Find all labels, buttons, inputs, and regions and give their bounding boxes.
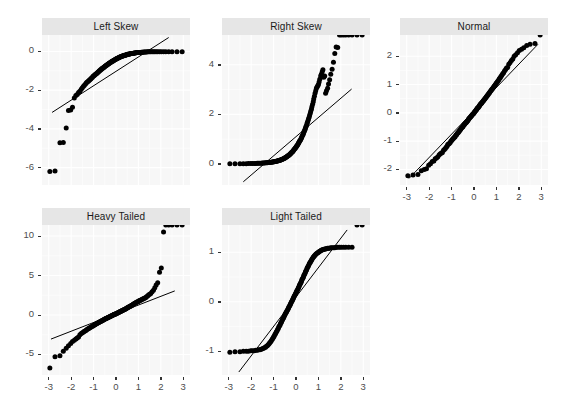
plot-panel-heavy-tailed — [42, 225, 190, 375]
panel-grid — [400, 35, 548, 185]
x-axis-tick-mark — [363, 377, 364, 380]
x-axis-tick-label: -3 — [217, 381, 241, 392]
data-points — [47, 225, 184, 370]
x-axis-tick-label: 2 — [507, 191, 531, 202]
data-points — [405, 35, 542, 178]
y-axis-tick-mark — [38, 354, 41, 355]
y-axis-tick-label: 0 — [368, 106, 392, 117]
plot-panel-light-tailed — [222, 225, 370, 375]
x-axis-tick-mark — [518, 187, 519, 190]
qq-plot-figure: Left Skew0-2-4-6Right Skew024Normal210-1… — [0, 0, 566, 401]
data-points — [227, 35, 364, 166]
x-axis-tick-label: 1 — [126, 381, 150, 392]
y-axis-tick-label: 0 — [190, 157, 214, 168]
panel-grid — [222, 225, 370, 375]
y-axis-tick-label: 0 — [10, 44, 34, 55]
x-axis-tick-mark — [541, 187, 542, 190]
y-axis-tick-label: -2 — [368, 162, 392, 173]
facet-right-skew: Right Skew024 — [0, 0, 566, 401]
y-axis-tick-mark — [396, 112, 399, 113]
y-axis-tick-label: 5 — [10, 269, 34, 280]
x-axis-tick-label: -3 — [37, 381, 61, 392]
facet-strip-label: Light Tailed — [270, 211, 322, 222]
x-axis-tick-mark — [138, 377, 139, 380]
x-axis-tick-mark — [451, 187, 452, 190]
y-axis-tick-label: -5 — [10, 347, 34, 358]
y-axis-tick-mark — [218, 163, 221, 164]
x-axis-tick-mark — [406, 187, 407, 190]
x-axis-tick-label: -1 — [82, 381, 106, 392]
x-axis-tick-label: 3 — [529, 191, 553, 202]
x-axis-tick-label: -2 — [59, 381, 83, 392]
y-axis-tick-mark — [38, 167, 41, 168]
x-axis-tick-mark — [71, 377, 72, 380]
x-axis-tick-mark — [496, 187, 497, 190]
facet-strip-label: Right Skew — [270, 21, 322, 32]
data-points — [227, 225, 364, 355]
y-axis-tick-label: 1 — [190, 245, 214, 256]
y-axis-tick-mark — [396, 169, 399, 170]
y-axis-tick-label: 10 — [10, 229, 34, 240]
y-axis-tick-mark — [38, 51, 41, 52]
x-axis-tick-label: -2 — [417, 191, 441, 202]
facet-strip-light-tailed: Light Tailed — [222, 208, 370, 225]
y-axis-tick-mark — [218, 114, 221, 115]
y-axis-tick-mark — [396, 84, 399, 85]
y-axis-tick-mark — [396, 141, 399, 142]
x-axis-tick-label: 3 — [351, 381, 375, 392]
y-axis-tick-label: -2 — [10, 83, 34, 94]
facet-strip-right-skew: Right Skew — [222, 18, 370, 35]
facet-strip-label: Heavy Tailed — [87, 211, 145, 222]
panel-grid — [42, 225, 190, 375]
panel-grid — [222, 35, 370, 185]
y-axis-tick-label: 2 — [190, 107, 214, 118]
x-axis-tick-mark — [183, 377, 184, 380]
facet-light-tailed: Light Tailed10-1-3-2-10123 — [0, 0, 566, 401]
y-axis-tick-mark — [218, 351, 221, 352]
reference-line — [239, 230, 347, 372]
facet-strip-label: Normal — [458, 21, 491, 32]
y-axis-tick-label: -6 — [10, 161, 34, 172]
y-axis-tick-label: 0 — [190, 295, 214, 306]
plot-panel-right-skew — [222, 35, 370, 185]
y-axis-tick-mark — [38, 90, 41, 91]
x-axis-tick-label: 1 — [484, 191, 508, 202]
y-axis-tick-mark — [396, 56, 399, 57]
plot-panel-left-skew — [42, 35, 190, 185]
facet-heavy-tailed: Heavy Tailed1050-5-3-2-10123 — [0, 0, 566, 401]
y-axis-tick-label: 0 — [10, 308, 34, 319]
facet-strip-heavy-tailed: Heavy Tailed — [42, 208, 190, 225]
x-axis-tick-mark — [115, 377, 116, 380]
y-axis-tick-label: -4 — [10, 122, 34, 133]
facet-normal: Normal210-1-2-3-2-10123 — [0, 0, 566, 401]
x-axis-tick-mark — [429, 187, 430, 190]
x-axis-tick-label: -1 — [262, 381, 286, 392]
x-axis-tick-mark — [228, 377, 229, 380]
y-axis-tick-mark — [38, 315, 41, 316]
x-axis-tick-mark — [160, 377, 161, 380]
y-axis-tick-mark — [38, 128, 41, 129]
y-axis-tick-label: -1 — [368, 134, 392, 145]
y-axis-tick-label: -1 — [190, 344, 214, 355]
reference-line — [409, 44, 538, 178]
x-axis-tick-label: 3 — [171, 381, 195, 392]
x-axis-tick-mark — [273, 377, 274, 380]
x-axis-tick-label: -2 — [239, 381, 263, 392]
x-axis-tick-label: -1 — [440, 191, 464, 202]
y-axis-tick-label: 1 — [368, 78, 392, 89]
facet-strip-normal: Normal — [400, 18, 548, 35]
facet-left-skew: Left Skew0-2-4-6 — [0, 0, 566, 401]
x-axis-tick-mark — [318, 377, 319, 380]
facet-strip-left-skew: Left Skew — [42, 18, 190, 35]
plot-panel-normal — [400, 35, 548, 185]
x-axis-tick-mark — [93, 377, 94, 380]
x-axis-tick-mark — [295, 377, 296, 380]
x-axis-tick-label: 0 — [284, 381, 308, 392]
x-axis-tick-label: 2 — [149, 381, 173, 392]
y-axis-tick-mark — [218, 64, 221, 65]
y-axis-tick-mark — [218, 252, 221, 253]
x-axis-tick-mark — [473, 187, 474, 190]
data-points — [47, 49, 184, 174]
y-axis-tick-mark — [218, 301, 221, 302]
x-axis-tick-label: -3 — [395, 191, 419, 202]
